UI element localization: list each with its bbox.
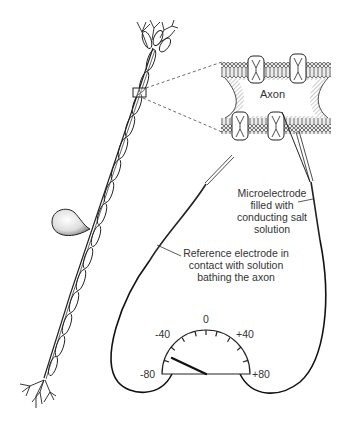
meter-tick-label: -40 [155, 328, 170, 340]
top-membrane [221, 62, 331, 78]
ion-channel-bottom-1 [232, 112, 248, 140]
microelectrode-label-line: Microelectrode [232, 187, 312, 199]
top-dendrites [137, 20, 178, 54]
microelectrode-label: Microelectrode filled with conducting sa… [232, 187, 312, 235]
bottom-dendrites [20, 380, 56, 408]
reference-electrode-label: Reference electrode in contact with solu… [176, 247, 296, 283]
meter-tick-label: +40 [236, 328, 254, 340]
neuron [20, 20, 178, 408]
reference-label-line: Reference electrode in [176, 247, 296, 259]
ion-channel-top-1 [248, 56, 264, 83]
reference-label-line: bathing the axon [176, 271, 296, 283]
meter-tick-label: -80 [140, 368, 155, 380]
meter-tick-label: +80 [252, 368, 270, 380]
zoom-region-marker [133, 88, 146, 97]
microelectrode-label-line: conducting salt [232, 211, 312, 223]
reference-electrode [150, 155, 234, 260]
ion-channel-top-2 [290, 54, 306, 83]
meter-tick-label: 0 [203, 313, 209, 325]
reference-label-line: contact with solution [176, 259, 296, 271]
microelectrode-label-line: filled with [232, 199, 312, 211]
axon-label: Axon [260, 88, 285, 100]
zoom-lines [143, 62, 222, 132]
microelectrode-label-line: solution [232, 223, 312, 235]
ion-channel-bottom-2 [268, 112, 284, 140]
cell-body [52, 209, 90, 235]
